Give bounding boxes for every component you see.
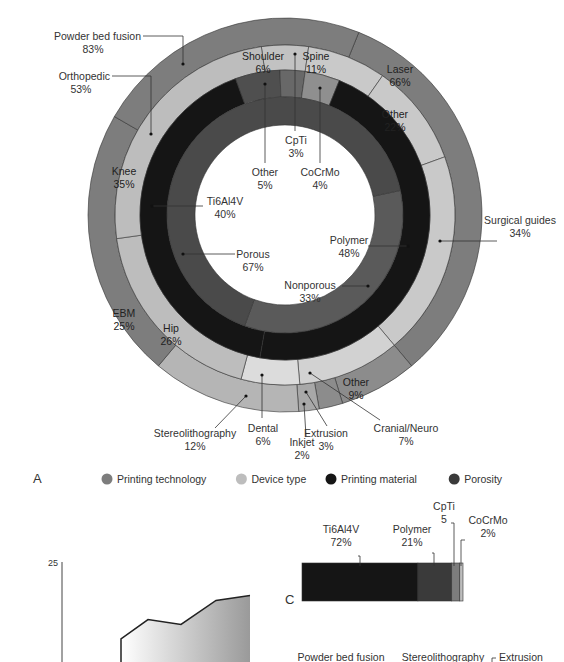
panel-label-c: C [285,592,294,607]
label-name: Other [252,166,279,178]
legend-swatch [449,474,460,485]
leader-dot [244,394,247,397]
donut-label-spine: Spine11% [303,50,330,75]
leader-dot [293,52,296,55]
donut-label-knee: Knee35% [112,165,137,190]
bar-segment-ti6al4v [302,563,418,601]
leader-dot [438,239,441,242]
label-name: Laser [387,63,414,75]
label-name: Ti6Al4V [323,523,359,535]
label-value: 9% [348,389,363,401]
label-name: EBM [113,307,136,319]
label-name: CpTi [433,500,455,512]
label-name: Dental [248,422,278,434]
label-value: 35% [113,178,134,190]
label-value: 6% [255,63,270,75]
label-name: Polymer [393,523,432,535]
leader-dot [181,62,184,65]
label-name: Surgical guides [484,214,556,226]
legend-swatch [102,474,113,485]
donut-label-laser: Laser66% [387,63,414,88]
leader-dot [260,373,263,376]
legend-label: Printing technology [117,473,207,485]
legend-label: Printing material [341,473,417,485]
legend-label: Device type [251,473,306,485]
label-name: Ti6Al4V [207,195,243,207]
label-value: 2% [294,449,309,461]
label-value: 66% [389,76,410,88]
legend-swatch [236,474,247,485]
legend-item-printing-material: Printing material [326,473,417,485]
label-value: 40% [214,208,235,220]
leader-dot [302,402,305,405]
bar-bottom-label: Extrusion [499,651,543,662]
label-name: CpTi [285,134,307,146]
bar-label-polymer: Polymer21% [393,523,434,566]
label-name: Hip [163,322,179,334]
label-value: 83% [82,43,103,55]
donut-label-other: Other22% [382,108,409,133]
donut-label-ebm: EBM25% [113,307,136,332]
legend-item-porosity: Porosity [449,473,503,485]
label-name: Shoulder [242,50,285,62]
label-value: 5% [257,179,272,191]
donut-label-hip: Hip26% [160,322,181,347]
leader-dot [406,244,409,247]
label-name: Porous [236,248,269,260]
label-value: 33% [299,292,320,304]
stacked-bar-c: Ti6Al4V72%Polymer21%CpTi5CoCrMo2%Powder … [298,500,544,662]
label-name: Cranial/Neuro [374,422,439,434]
label-value: 6% [255,435,270,447]
leader-dot [318,86,321,89]
legend-swatch [326,474,337,485]
y-tick-label: 25 [48,558,58,568]
figure: Powder bed fusion83%Laser66%EBM25%Other9… [0,0,564,662]
bar-label-cpti: CpTi5 [433,500,455,566]
label-value: 72% [330,536,351,548]
bar-bottom-label: Stereolithography [402,651,485,662]
leader-dot [181,252,184,255]
bar-segment-polymer [418,563,452,601]
label-value: 11% [306,63,326,75]
donut-chart [88,18,482,412]
label-name: Knee [112,165,137,177]
label-value: 25% [113,320,134,332]
leader-line [451,523,454,566]
label-value: 12% [184,440,205,452]
legend-item-device-type: Device type [236,473,307,485]
area-fill [121,596,250,662]
leader-dot [304,390,307,393]
leader-line [461,540,465,566]
leader-dot [149,132,152,135]
label-value: 21% [401,536,422,548]
label-value: 3% [318,440,333,452]
bar-bottom-label: Powder bed fusion [298,651,385,662]
donut-segment-printing-material-cpti [280,70,305,98]
leader-dot [308,371,311,374]
bar-label-ti6al4v: Ti6Al4V72% [323,523,360,566]
bar-segment-cocrmo [460,563,463,601]
label-value: 22% [384,121,405,133]
label-name: Powder bed fusion [54,30,141,42]
label-name: CoCrMo [468,514,507,526]
label-name: Other [382,108,409,120]
label-value: 53% [70,83,91,95]
label-value: 26% [160,335,181,347]
leader-dot [366,284,369,287]
label-value: 7% [398,435,413,447]
label-name: Polymer [330,234,369,246]
label-name: Nonporous [284,279,335,291]
label-name: CoCrMo [300,166,339,178]
label-value: 3% [288,147,303,159]
label-value: 4% [312,179,327,191]
label-value: 48% [338,247,359,259]
label-value: 2% [480,527,495,539]
label-value: 5 [441,513,447,525]
bar-label-cocrmo: CoCrMo2% [461,514,508,566]
bar-segment-cpti [452,563,460,601]
label-name: Spine [303,50,330,62]
legend-item-printing-technology: Printing technology [102,473,208,485]
label-name: Orthopedic [59,70,110,82]
leader-line [492,658,496,662]
label-name: Inkjet [289,436,314,448]
